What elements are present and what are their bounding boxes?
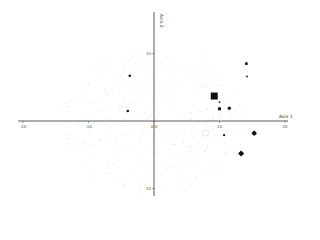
- background-point: [138, 177, 139, 178]
- background-point: [157, 108, 158, 109]
- background-point: [139, 102, 140, 103]
- background-point: [100, 139, 101, 140]
- background-point: [148, 161, 149, 162]
- background-point: [88, 129, 89, 130]
- background-point: [190, 129, 191, 130]
- background-point: [132, 93, 133, 94]
- background-point: [123, 118, 124, 119]
- background-point: [105, 124, 106, 125]
- background-point: [136, 95, 137, 96]
- background-point: [112, 181, 113, 182]
- background-point: [107, 167, 108, 168]
- background-point: [176, 160, 177, 161]
- background-point: [195, 152, 196, 153]
- background-point: [230, 146, 231, 147]
- background-point: [77, 125, 78, 126]
- background-point: [181, 133, 182, 134]
- background-point: [93, 124, 94, 125]
- background-point: [133, 84, 134, 85]
- background-point: [167, 56, 168, 57]
- background-point: [130, 72, 131, 73]
- background-point: [202, 73, 203, 74]
- background-point: [173, 144, 174, 145]
- background-point: [198, 181, 199, 182]
- background-point: [117, 167, 118, 168]
- background-point: [115, 139, 116, 140]
- background-point: [159, 91, 160, 92]
- background-point: [191, 118, 192, 119]
- background-point: [85, 163, 86, 164]
- background-point: [106, 92, 107, 93]
- background-point: [208, 138, 209, 139]
- background-point: [144, 131, 145, 132]
- background-point: [187, 67, 188, 68]
- background-point: [172, 62, 173, 63]
- background-point: [189, 112, 190, 113]
- background-point: [193, 105, 194, 106]
- background-point: [74, 143, 75, 144]
- background-point: [148, 170, 149, 171]
- background-point: [165, 171, 166, 172]
- background-point: [83, 149, 84, 150]
- background-point: [69, 101, 70, 102]
- background-point: [160, 186, 161, 187]
- background-point: [78, 127, 79, 128]
- background-point: [228, 149, 229, 150]
- background-point: [183, 65, 184, 66]
- background-point: [64, 103, 65, 104]
- background-point: [147, 111, 148, 112]
- background-point: [86, 141, 87, 142]
- background-point: [239, 104, 240, 105]
- background-point: [200, 111, 201, 112]
- background-point: [84, 94, 85, 95]
- background-point: [173, 166, 174, 167]
- background-point: [226, 132, 227, 133]
- background-point: [140, 80, 141, 81]
- background-point: [143, 103, 144, 104]
- background-point: [115, 136, 116, 137]
- data-point-dot: [129, 75, 132, 78]
- data-point-square: [245, 62, 248, 65]
- background-point: [173, 128, 174, 129]
- background-point: [134, 128, 135, 129]
- background-point: [120, 106, 121, 107]
- background-point: [122, 105, 123, 106]
- y-tick-label: 10: [146, 51, 152, 56]
- background-point: [123, 186, 124, 187]
- background-point: [241, 105, 242, 106]
- background-point: [94, 122, 95, 123]
- background-point: [152, 152, 153, 153]
- background-point: [211, 120, 212, 121]
- background-point: [205, 138, 206, 139]
- background-point: [73, 103, 74, 104]
- background-point: [202, 86, 203, 87]
- background-point: [59, 107, 60, 108]
- background-point: [191, 147, 192, 148]
- background-point: [100, 98, 101, 99]
- background-point: [207, 122, 208, 123]
- background-point: [95, 100, 96, 101]
- background-point: [159, 114, 160, 115]
- background-point: [209, 126, 210, 127]
- background-point: [214, 135, 215, 136]
- background-point: [217, 164, 218, 165]
- background-point: [203, 175, 204, 176]
- background-point: [184, 114, 185, 115]
- background-point: [127, 61, 128, 62]
- background-point: [92, 102, 93, 103]
- background-point: [235, 111, 236, 112]
- background-point: [128, 103, 129, 104]
- background-point: [166, 87, 167, 88]
- background-point: [112, 92, 113, 93]
- background-point: [223, 85, 224, 86]
- background-point: [183, 143, 184, 144]
- background-point: [212, 116, 213, 117]
- background-point: [108, 94, 109, 95]
- background-point: [140, 193, 141, 194]
- background-point: [100, 140, 101, 141]
- background-point: [87, 148, 88, 149]
- background-point: [215, 107, 216, 108]
- background-point: [141, 142, 142, 143]
- background-point: [204, 67, 205, 68]
- background-point: [66, 106, 67, 107]
